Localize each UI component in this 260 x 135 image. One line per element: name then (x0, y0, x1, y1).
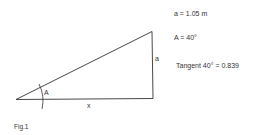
side-x (16, 99, 153, 100)
label-x: x (87, 102, 91, 110)
given-angle: A = 40° (174, 34, 197, 42)
side-a (152, 32, 153, 99)
label-a: a (155, 55, 159, 63)
label-angle-a: A (44, 89, 49, 97)
hypotenuse (16, 32, 152, 100)
given-a: a = 1.05 m (174, 10, 207, 18)
figure-caption: Fig.1 (14, 123, 28, 131)
given-tangent: Tangent 40° = 0.839 (176, 62, 239, 70)
